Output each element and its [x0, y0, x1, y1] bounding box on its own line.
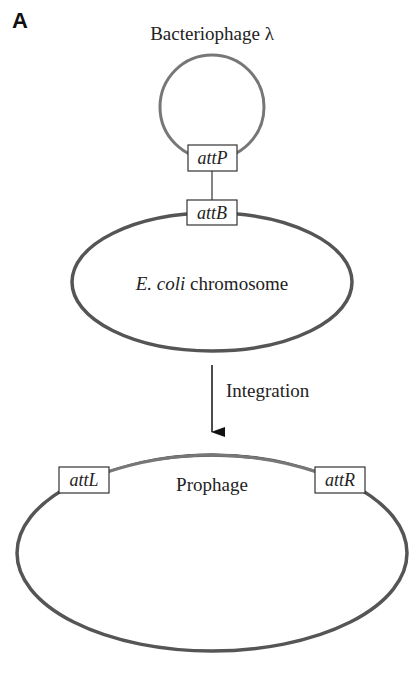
integration-diagram: A Bacteriophage λ attP attB E. coli chro… — [0, 0, 412, 674]
attB-label: attB — [197, 203, 227, 223]
attP-site: attP — [188, 145, 237, 171]
attR-label: attR — [325, 470, 355, 490]
panel-label: A — [12, 8, 28, 33]
chromosome-label: E. coli chromosome — [135, 273, 289, 294]
prophage-label: Prophage — [176, 474, 248, 495]
phage-title: Bacteriophage λ — [150, 23, 274, 44]
phage-segment-mask — [100, 450, 325, 470]
attP-label: attP — [198, 148, 228, 168]
phage-genome-circle — [160, 55, 264, 159]
chromosome-label-species: E. coli — [135, 273, 186, 294]
chromosome-label-rest: chromosome — [185, 273, 288, 294]
integration-label: Integration — [226, 380, 310, 401]
attR-site: attR — [315, 467, 365, 493]
attL-label: attL — [69, 470, 98, 490]
attL-site: attL — [59, 467, 109, 493]
attB-site: attB — [187, 200, 237, 225]
